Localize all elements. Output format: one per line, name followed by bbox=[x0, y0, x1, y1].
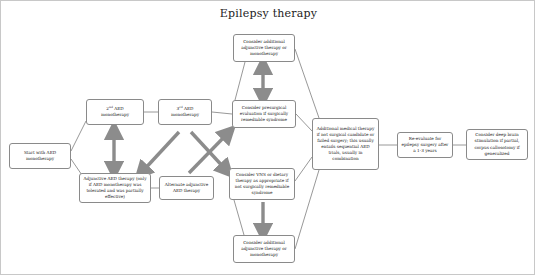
connector-considerbottom-to-additional bbox=[295, 170, 319, 249]
connector-presurgical-to-additional bbox=[296, 114, 312, 131]
connector-vns-to-additional bbox=[295, 157, 312, 181]
node-additional_medical[interactable]: Additional medical therapy if not surgic… bbox=[312, 118, 379, 170]
node-presurgical[interactable]: Consider presurgical evaluation if surgi… bbox=[232, 100, 296, 128]
node-vns[interactable]: Consider VNS or dietary therapy as appro… bbox=[229, 168, 295, 200]
node-label-presurgical: Consider presurgical evaluation if surgi… bbox=[235, 105, 293, 123]
node-alternate[interactable]: Alternate adjunctive AED therapy bbox=[159, 176, 214, 200]
node-label-alternate: Alternate adjunctive AED therapy bbox=[162, 182, 211, 194]
node-adjunctive[interactable]: Adjunctive AED therapy (only if AED mono… bbox=[79, 173, 151, 203]
node-label-consider_bottom: Consider additional adjunctive therapy o… bbox=[236, 240, 292, 258]
node-deep_brain[interactable]: Consider deep brain stimulation if parti… bbox=[466, 129, 528, 160]
thick-arrows bbox=[114, 65, 263, 233]
node-label-additional_medical: Additional medical therapy if not surgic… bbox=[315, 126, 376, 163]
node-second_aed[interactable]: 2nd AEDmonotherapy bbox=[86, 99, 144, 125]
node-label-consider_top: Consider additional adjunctive therapy o… bbox=[236, 39, 292, 57]
node-consider_bottom[interactable]: Consider additional adjunctive therapy o… bbox=[233, 235, 295, 263]
connector-third-to-presurgical bbox=[212, 112, 232, 114]
node-consider_top[interactable]: Consider additional adjunctive therapy o… bbox=[233, 34, 295, 62]
node-label-adjunctive: Adjunctive AED therapy (only if AED mono… bbox=[82, 176, 148, 200]
node-label-third_aed: 3rd AEDmonotherapy bbox=[161, 106, 209, 118]
node-label-vns: Consider VNS or dietary therapy as appro… bbox=[232, 172, 292, 196]
arrow-third-to-adjunctive-diagonal bbox=[141, 132, 179, 173]
connector-considertop-to-additional bbox=[295, 49, 319, 118]
connector-start-to-second bbox=[71, 121, 86, 151]
node-label-deep_brain: Consider deep brain stimulation if parti… bbox=[469, 132, 525, 156]
connector-presurgical-to-considertop bbox=[235, 62, 245, 100]
node-label-start: Start with AED monotherapy bbox=[12, 150, 68, 162]
diagram-canvas: Epilepsy therapy Start with AED monother… bbox=[0, 0, 535, 275]
node-reevaluate[interactable]: Re-evaluate for epilepsy surgery after a… bbox=[397, 132, 453, 158]
node-label-second_aed: 2nd AEDmonotherapy bbox=[89, 106, 141, 118]
node-label-reevaluate: Re-evaluate for epilepsy surgery after a… bbox=[400, 136, 450, 154]
node-third_aed[interactable]: 3rd AEDmonotherapy bbox=[158, 99, 212, 125]
connector-vns-to-considerbottom bbox=[234, 200, 244, 235]
node-start[interactable]: Start with AED monotherapy bbox=[9, 143, 71, 169]
